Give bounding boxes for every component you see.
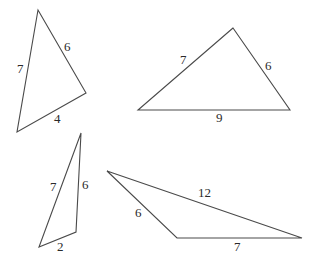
triangle-4-side-label: 12 bbox=[198, 185, 211, 200]
triangle-1-shape bbox=[17, 10, 86, 132]
triangle-2-side-label: 9 bbox=[216, 110, 223, 125]
triangle-4-side-label: 7 bbox=[234, 239, 241, 254]
triangle-3: 7 6 2 bbox=[39, 133, 89, 254]
triangle-1-side-label: 4 bbox=[54, 111, 61, 126]
triangle-2: 7 6 9 bbox=[138, 28, 290, 125]
triangle-2-side-label: 7 bbox=[180, 52, 187, 67]
triangle-4-side-label: 6 bbox=[135, 205, 142, 220]
triangle-1: 7 6 4 bbox=[17, 10, 86, 132]
triangle-3-side-label: 6 bbox=[82, 177, 89, 192]
triangle-1-side-label: 6 bbox=[64, 39, 71, 54]
triangle-1-side-label: 7 bbox=[17, 61, 24, 76]
triangles-diagram: 7 6 4 7 6 9 7 6 2 12 6 7 bbox=[0, 0, 321, 262]
triangle-3-shape bbox=[39, 133, 81, 247]
triangle-3-side-label: 2 bbox=[57, 239, 64, 254]
triangle-3-side-label: 7 bbox=[50, 179, 57, 194]
triangle-4: 12 6 7 bbox=[107, 171, 302, 254]
triangle-2-side-label: 6 bbox=[265, 58, 272, 73]
